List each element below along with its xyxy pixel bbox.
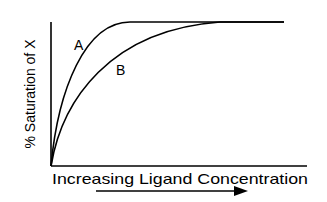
curve-b-label: B	[116, 62, 125, 78]
curve-a	[51, 22, 284, 166]
saturation-chart: A B % Saturation of X Increasing Ligand …	[0, 0, 327, 202]
curve-b	[51, 22, 284, 166]
x-axis-label: Increasing Ligand Concentration	[52, 171, 308, 187]
curve-a-label: A	[74, 37, 84, 53]
arrow-right-icon	[96, 186, 248, 196]
y-axis-label: % Saturation of X	[22, 39, 38, 149]
